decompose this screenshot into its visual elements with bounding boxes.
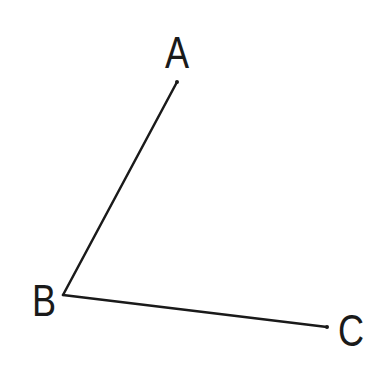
angle-diagram: A B C — [0, 0, 378, 373]
point-c-marker — [325, 325, 329, 329]
label-point-c: C — [338, 307, 364, 356]
segment-ba — [63, 82, 177, 295]
point-a-marker — [175, 80, 179, 84]
segment-bc — [63, 295, 327, 327]
diagram-canvas: A B C — [0, 0, 378, 373]
label-point-b: B — [32, 277, 56, 326]
label-point-a: A — [165, 29, 189, 78]
